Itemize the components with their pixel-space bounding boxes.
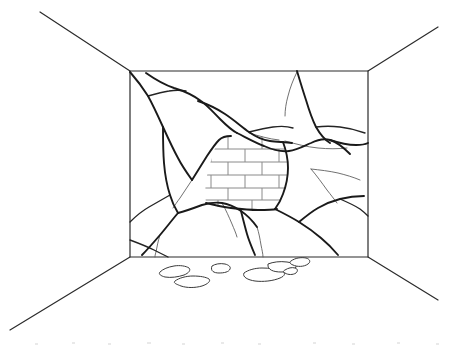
cracked-wall-drawing [0,0,459,349]
rubble-piece-3 [211,264,230,273]
scan-speck-4 [147,342,151,344]
scan-speck-7 [258,343,261,345]
scan-speck-9 [352,343,355,345]
ceiling-left-edge-line [40,12,130,71]
scan-speck-11 [436,343,439,345]
scan-speck-1 [35,343,38,345]
rubble-piece-1 [159,266,189,278]
ceiling-right-edge-line [368,27,438,71]
floor-rubble-group [159,258,309,288]
scan-speck-6 [221,342,224,344]
scan-speck-8 [313,342,316,344]
scan-artifact-group [35,342,439,345]
brick-field-fill [205,135,288,210]
scan-speck-5 [182,343,185,345]
illustration-canvas [0,0,459,349]
rubble-piece-2 [174,276,209,288]
rubble-piece-7 [290,258,310,267]
floor-right-edge-line [368,257,438,300]
scan-speck-2 [72,342,75,344]
scan-speck-10 [397,342,400,344]
floor-left-edge-line [10,257,130,330]
scan-speck-3 [108,343,111,345]
